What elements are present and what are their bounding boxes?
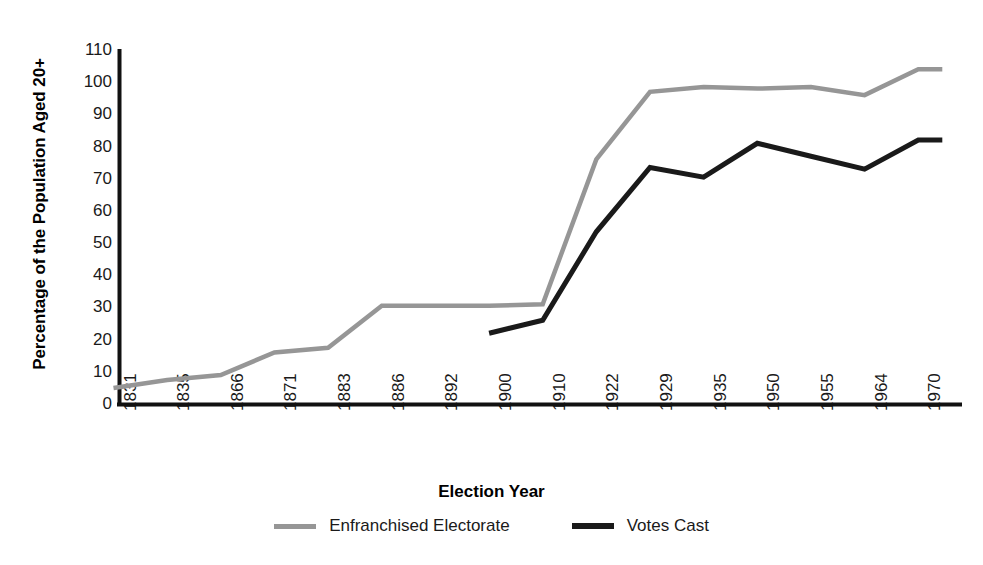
data-series-layer [114, 69, 943, 388]
legend-color-swatch [274, 524, 316, 529]
legend-label: Enfranchised Electorate [329, 516, 510, 536]
x-axis-title: Election Year [0, 482, 983, 502]
plot-area [0, 0, 983, 565]
chart-container: Percentage of the Population Aged 20+ 11… [0, 0, 983, 565]
series-line-votes-cast [489, 140, 942, 333]
axis-lines [117, 49, 962, 405]
legend-color-swatch [572, 523, 614, 529]
chart-legend: Enfranchised ElectorateVotes Cast [0, 516, 983, 536]
legend-label: Votes Cast [627, 516, 709, 536]
legend-item[interactable]: Votes Cast [572, 516, 709, 536]
series-line-enfranchised-electorate [114, 69, 943, 388]
legend-item[interactable]: Enfranchised Electorate [274, 516, 510, 536]
